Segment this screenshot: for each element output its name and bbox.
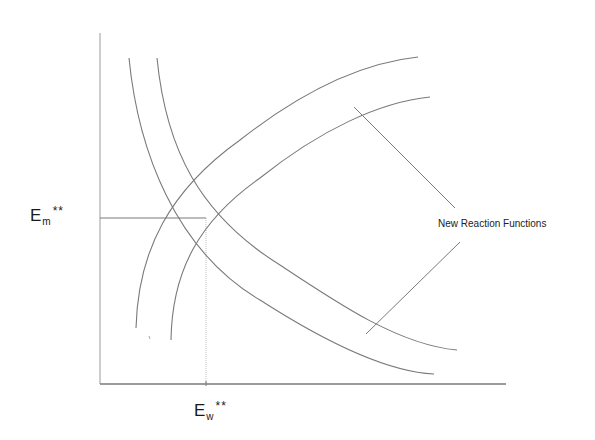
falling-reaction-function-new [157, 58, 457, 350]
em-base: E [30, 206, 41, 225]
em-equilibrium-label: Em** [30, 205, 64, 227]
pointer-line-lower [366, 242, 460, 334]
rising-reaction-function-new [171, 97, 430, 340]
pointer-line-upper [354, 107, 455, 208]
em-subscript: m [42, 216, 50, 227]
stray-mark [149, 336, 150, 339]
ew-subscript: w [206, 411, 213, 422]
ew-superscript: ** [216, 399, 227, 413]
new-reaction-functions-label: New Reaction Functions [438, 218, 546, 229]
ew-equilibrium-label: Ew** [194, 400, 227, 422]
em-superscript: ** [53, 204, 64, 218]
ew-base: E [194, 401, 205, 420]
